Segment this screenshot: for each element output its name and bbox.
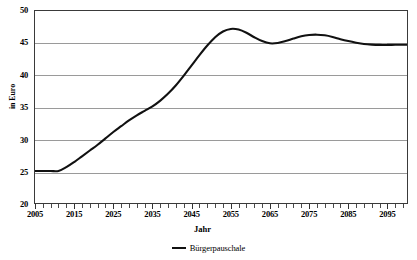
x-tick-mark bbox=[364, 204, 365, 208]
x-tick-mark bbox=[43, 204, 44, 208]
x-tick-mark bbox=[105, 204, 106, 208]
x-tick-mark bbox=[372, 204, 373, 208]
x-tick-mark bbox=[215, 204, 216, 208]
x-tick-label: 2065 bbox=[262, 209, 278, 219]
x-tick-label: 2045 bbox=[184, 209, 200, 219]
y-tick-label: 45 bbox=[20, 38, 28, 46]
x-tick-mark bbox=[137, 204, 138, 208]
x-tick-mark bbox=[184, 204, 185, 208]
x-tick-label: 2055 bbox=[223, 209, 239, 219]
x-tick-mark bbox=[129, 204, 130, 208]
x-tick-label: 2005 bbox=[27, 209, 43, 219]
x-tick-mark bbox=[160, 204, 161, 208]
x-tick-mark bbox=[301, 204, 302, 208]
plot-area bbox=[34, 10, 408, 204]
x-tick-mark bbox=[317, 204, 318, 208]
x-axis-title: Jahr bbox=[0, 224, 417, 234]
x-tick-label: 2015 bbox=[66, 209, 82, 219]
x-tick-mark bbox=[246, 204, 247, 208]
x-tick-mark bbox=[207, 204, 208, 208]
legend-line-swatch bbox=[172, 247, 186, 249]
x-axis-tick-labels: 2005201520252035204520552065207520852095 bbox=[0, 209, 417, 223]
x-tick-label: 2095 bbox=[379, 209, 395, 219]
x-tick-mark bbox=[176, 204, 177, 208]
x-tick-mark bbox=[199, 204, 200, 208]
x-tick-mark bbox=[82, 204, 83, 208]
y-tick-label: 20 bbox=[20, 200, 28, 208]
x-tick-mark bbox=[121, 204, 122, 208]
x-tick-mark bbox=[325, 204, 326, 208]
x-tick-mark bbox=[380, 204, 381, 208]
x-tick-mark bbox=[223, 204, 224, 208]
x-tick-label: 2085 bbox=[340, 209, 356, 219]
chart-container: 50 45 40 35 30 25 20 in Euro 20052015202… bbox=[0, 0, 417, 260]
x-tick-mark bbox=[168, 204, 169, 208]
x-tick-mark bbox=[239, 204, 240, 208]
x-tick-label: 2075 bbox=[301, 209, 317, 219]
x-tick-mark bbox=[90, 204, 91, 208]
x-tick-mark bbox=[278, 204, 279, 208]
x-tick-mark bbox=[293, 204, 294, 208]
y-tick-label: 35 bbox=[20, 103, 28, 111]
x-tick-label: 2025 bbox=[105, 209, 121, 219]
x-tick-mark bbox=[340, 204, 341, 208]
y-tick-label: 25 bbox=[20, 168, 28, 176]
x-axis-title-text: Jahr bbox=[194, 224, 211, 234]
legend-item-label: Bürgerpauschale bbox=[190, 243, 245, 253]
y-tick-label: 50 bbox=[20, 6, 28, 14]
x-tick-mark bbox=[66, 204, 67, 208]
x-tick-mark bbox=[333, 204, 334, 208]
y-tick-label: 30 bbox=[20, 136, 28, 144]
x-tick-mark bbox=[262, 204, 263, 208]
x-tick-mark bbox=[58, 204, 59, 208]
x-tick-mark bbox=[286, 204, 287, 208]
x-tick-mark bbox=[403, 204, 404, 208]
x-tick-mark bbox=[356, 204, 357, 208]
chart-legend: Bürgerpauschale bbox=[0, 243, 417, 253]
data-series-buergerpauschale bbox=[35, 11, 407, 203]
x-tick-mark bbox=[395, 204, 396, 208]
x-tick-label: 2035 bbox=[144, 209, 160, 219]
x-tick-mark bbox=[254, 204, 255, 208]
x-tick-mark bbox=[145, 204, 146, 208]
x-tick-mark bbox=[98, 204, 99, 208]
y-tick-label: 40 bbox=[20, 71, 28, 79]
chart-title bbox=[34, 0, 408, 6]
x-tick-mark bbox=[51, 204, 52, 208]
y-axis-title: in Euro bbox=[8, 67, 17, 127]
